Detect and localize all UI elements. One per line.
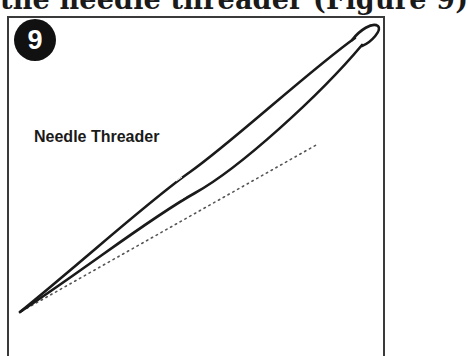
lower-wire <box>20 45 362 312</box>
dotted-guide-line <box>22 144 318 311</box>
wire-loop <box>352 25 379 46</box>
upper-wire <box>20 38 355 312</box>
